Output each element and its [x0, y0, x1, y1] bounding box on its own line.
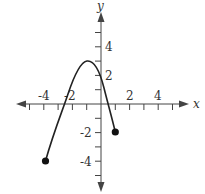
y-tick-label-4: 4 [105, 40, 113, 54]
y-axis-down-arrow-icon [98, 182, 105, 192]
y-axis [95, 12, 105, 192]
endpoint-right [112, 128, 119, 135]
y-tick-label-neg4: -4 [80, 155, 92, 169]
y-tick-label-2: 2 [105, 69, 113, 83]
y-axis-label: y [96, 0, 104, 13]
x-axis-left-arrow-icon [16, 101, 26, 108]
function-graph: -4 -2 2 4 4 2 -2 -4 x y [0, 0, 205, 194]
x-tick-label-2: 2 [126, 89, 134, 103]
y-axis-up-arrow-icon [98, 12, 105, 22]
x-axis-label: x [193, 97, 200, 111]
x-tick-label-neg4: -4 [38, 89, 50, 103]
y-tick-label-neg2: -2 [80, 126, 92, 140]
endpoint-left [42, 157, 49, 164]
x-axis-right-arrow-icon [179, 101, 189, 108]
x-tick-label-4: 4 [154, 89, 162, 103]
